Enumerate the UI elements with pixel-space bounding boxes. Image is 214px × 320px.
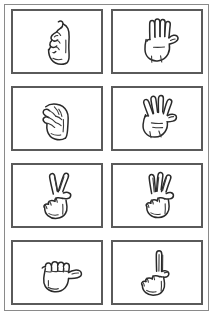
sign-panel-grid (11, 9, 203, 307)
sign-panel-1[interactable] (11, 9, 103, 74)
asl-hand-sign-d-icon (113, 242, 201, 303)
asl-hand-sign-w-icon (113, 165, 201, 226)
asl-hand-sign-x-icon (13, 11, 101, 72)
sign-panel-3[interactable] (11, 86, 103, 151)
sign-panel-6[interactable] (111, 163, 203, 228)
asl-hand-sign-b-icon (113, 11, 201, 72)
sign-panel-5[interactable] (11, 163, 103, 228)
asl-hand-sign-4-icon (113, 88, 201, 149)
asl-hand-sign-v-icon (13, 165, 101, 226)
sign-panel-8[interactable] (111, 240, 203, 305)
asl-hand-sign-a-icon (13, 242, 101, 303)
sign-panel-7[interactable] (11, 240, 103, 305)
asl-sign-chart-sheet (0, 0, 214, 320)
asl-hand-sign-e-icon (13, 88, 101, 149)
sign-panel-2[interactable] (111, 9, 203, 74)
sign-panel-4[interactable] (111, 86, 203, 151)
